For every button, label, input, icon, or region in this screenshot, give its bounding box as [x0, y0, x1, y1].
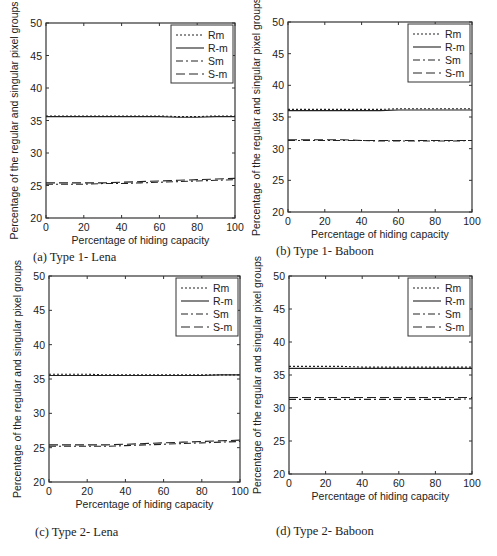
y-tick-label: 45: [273, 303, 285, 315]
y-tick-label: 20: [273, 468, 285, 480]
legend: RmR-mSmS-m: [408, 278, 470, 336]
y-tick-label: 35: [273, 369, 285, 381]
legend-label-R-m: R-m: [445, 295, 465, 307]
y-axis-label: Percentage of the regular and singular p…: [251, 256, 263, 494]
y-tick-label: 25: [273, 435, 285, 447]
y-tick-label: 40: [273, 336, 285, 348]
x-tick-label: 20: [320, 477, 332, 489]
caption-d: (d) Type 2- Baboon: [276, 524, 374, 539]
chart-d-svg: 02040608010020253035404550Percentage of …: [0, 0, 497, 556]
x-axis-label: Percentage of hiding capacity: [312, 490, 451, 502]
x-tick-label: 60: [393, 477, 405, 489]
y-tick-label: 50: [273, 270, 285, 282]
legend-label-Sm: Sm: [445, 308, 461, 320]
x-tick-label: 100: [463, 477, 481, 489]
legend-label-S-m: S-m: [445, 321, 465, 333]
x-tick-label: 80: [430, 477, 442, 489]
legend-label-Rm: Rm: [445, 282, 462, 294]
y-tick-label: 30: [273, 402, 285, 414]
x-tick-label: 40: [356, 477, 368, 489]
x-tick-label: 0: [286, 477, 292, 489]
chart-panel-d: 02040608010020253035404550Percentage of …: [0, 0, 497, 556]
